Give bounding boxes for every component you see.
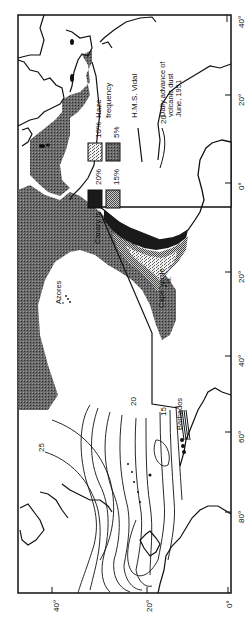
axis-right-tick-60w: 60° bbox=[237, 431, 246, 443]
legend-title-haze: Haze bbox=[94, 99, 103, 118]
axis-right-tick-0: 0° bbox=[237, 182, 246, 190]
legend-label-15pct: 15% bbox=[112, 169, 121, 185]
haze-map: 20% 15% 10% 5% Haze frequency H.M.S. Vid… bbox=[0, 0, 252, 620]
place-label-cape-verde-is: Is. bbox=[164, 276, 173, 284]
place-label-canary: Canary Is. bbox=[93, 210, 102, 244]
legend-swatch-20pct bbox=[88, 190, 102, 208]
axis-right-tick-80w: 80° bbox=[237, 511, 246, 523]
legend-title-frequency: frequency bbox=[104, 83, 113, 118]
legend-dust-line3: June, 1951 bbox=[174, 80, 183, 117]
legend-label-20pct: 20% bbox=[94, 169, 103, 185]
axis-right-tick-40w: 40° bbox=[237, 355, 246, 367]
place-label-azores: Azores bbox=[54, 280, 63, 304]
legend-label-10pct: 10% bbox=[94, 122, 103, 138]
place-label-cape-verde: Cape Verde bbox=[157, 268, 166, 308]
map-frame bbox=[18, 15, 231, 593]
legend-swatch-15pct bbox=[106, 190, 120, 208]
contour-label-20: 20 bbox=[129, 397, 138, 406]
legend-ship-track-label: H.M.S. Vidal bbox=[130, 73, 139, 118]
contour-label-15: 15 bbox=[159, 407, 168, 416]
place-label-barbados: Barbados bbox=[175, 398, 184, 430]
legend-label-5pct: 5% bbox=[112, 126, 121, 138]
axis-right-tick-20w: 20° bbox=[237, 271, 246, 283]
legend-swatch-10pct bbox=[88, 143, 102, 161]
axis-right-tick-20e: 20° bbox=[237, 94, 246, 106]
axis-right-tick-40n: 40° bbox=[237, 16, 246, 28]
axis-left-tick-20: 20° bbox=[145, 600, 154, 612]
legend-swatch-5pct bbox=[106, 143, 120, 161]
contour-label-25: 25 bbox=[37, 443, 46, 452]
axis-left-tick-40: 40° bbox=[52, 600, 61, 612]
